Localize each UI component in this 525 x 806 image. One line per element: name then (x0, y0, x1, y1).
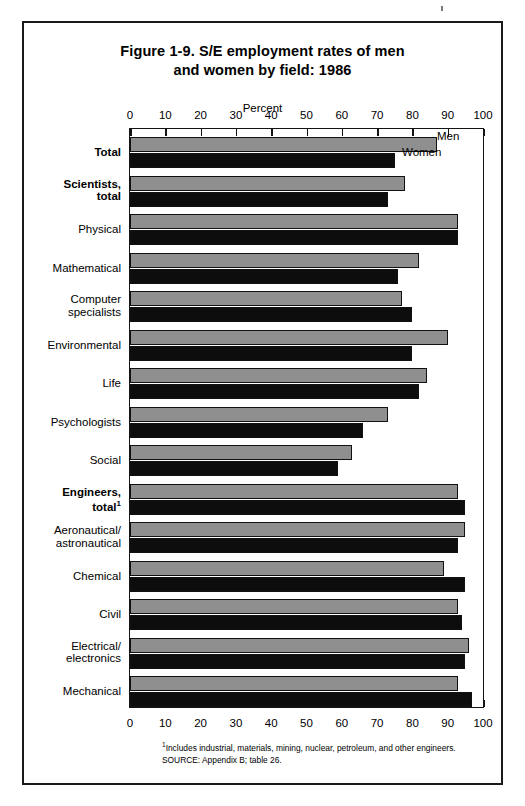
bar-group: Mathematical (130, 253, 483, 284)
bar-women (130, 423, 363, 438)
x-tick-top-0 (130, 129, 132, 136)
category-label-line: Psychologists (0, 416, 121, 429)
bar-group: Life (130, 368, 483, 399)
bar-women (130, 153, 395, 168)
bar-group: Mechanical (130, 676, 483, 707)
bar-group: Social (130, 445, 483, 476)
x-tick-label-bottom-30: 30 (216, 717, 256, 729)
x-tick-label-bottom-100: 100 (463, 717, 503, 729)
category-label-line: astronautical (0, 537, 121, 550)
x-tick-label-top-40: 40 (251, 109, 291, 121)
category-label-line: Electrical/ (0, 640, 121, 653)
x-tick-label-bottom-90: 90 (428, 717, 468, 729)
bar-men (130, 291, 402, 306)
bar-men (130, 253, 419, 268)
x-tick-label-top-20: 20 (181, 109, 221, 121)
category-label: Chemical (0, 570, 130, 583)
category-label: Mechanical (0, 685, 130, 698)
category-label: Life (0, 377, 130, 390)
category-label-line: Total (0, 146, 121, 159)
figure-frame: Figure 1-9. S/E employment rates of men … (22, 21, 503, 785)
category-label-line: Mathematical (0, 262, 121, 275)
category-label-line: Chemical (0, 570, 121, 583)
bar-men (130, 484, 458, 499)
x-tick-top-70 (377, 129, 379, 136)
figure-title-line1: Figure 1-9. S/E employment rates of men (120, 43, 404, 59)
category-label: Computerspecialists (0, 293, 130, 318)
scan-artifact (441, 6, 443, 11)
bar-women (130, 384, 419, 399)
bar-women (130, 192, 388, 207)
bar-group: Civil (130, 599, 483, 630)
category-label: Total (0, 146, 130, 159)
bar-men (130, 214, 458, 229)
category-label-line: Environmental (0, 339, 121, 352)
bar-men (130, 522, 465, 537)
x-tick-label-bottom-20: 20 (181, 717, 221, 729)
bar-women (130, 500, 465, 515)
chart-plot-area: 0010102020303040405050606070708080909010… (129, 128, 484, 708)
bar-women (130, 346, 412, 361)
footnote-text: Includes industrial, materials, mining, … (166, 743, 456, 753)
bar-group: Scientists,total (130, 176, 483, 207)
category-label: Scientists,total (0, 178, 130, 203)
bar-women (130, 692, 472, 707)
bar-group: Physical (130, 214, 483, 245)
category-label-line: Civil (0, 608, 121, 621)
bar-women (130, 307, 412, 322)
bar-men (130, 561, 444, 576)
x-tick-label-top-50: 50 (287, 109, 327, 121)
bar-group: Chemical (130, 561, 483, 592)
bar-group: Environmental (130, 330, 483, 361)
x-tick-label-top-80: 80 (392, 109, 432, 121)
source-line: SOURCE: Appendix B; table 26. (162, 754, 456, 766)
x-tick-label-top-10: 10 (145, 109, 185, 121)
x-tick-top-100 (483, 129, 485, 136)
bar-women (130, 538, 458, 553)
bar-women (130, 577, 465, 592)
bar-men (130, 137, 437, 152)
footnote-line: 1Includes industrial, materials, mining,… (162, 739, 456, 754)
series-label-women: Women (402, 146, 441, 158)
x-tick-top-60 (342, 129, 344, 136)
category-label: Civil (0, 608, 130, 621)
category-label-line: Engineers, (0, 486, 121, 499)
bar-men (130, 330, 448, 345)
category-label-line: Social (0, 454, 121, 467)
x-tick-top-40 (271, 129, 273, 136)
x-tick-label-top-100: 100 (463, 109, 503, 121)
category-label: Physical (0, 223, 130, 236)
x-tick-top-80 (412, 129, 414, 136)
x-tick-top-30 (236, 129, 238, 136)
x-tick-label-top-60: 60 (322, 109, 362, 121)
figure-title: Figure 1-9. S/E employment rates of men … (24, 42, 501, 80)
category-label-line: Computer (0, 293, 121, 306)
x-tick-label-bottom-40: 40 (251, 717, 291, 729)
bar-group: Psychologists (130, 407, 483, 438)
category-label-line: Life (0, 377, 121, 390)
category-label: Psychologists (0, 416, 130, 429)
category-label-superscript: 1 (117, 499, 121, 508)
bar-group: Computerspecialists (130, 291, 483, 322)
bar-women (130, 654, 465, 669)
category-label-line: Aeronautical/ (0, 524, 121, 537)
category-label: Electrical/electronics (0, 640, 130, 665)
x-tick-top-10 (165, 129, 167, 136)
x-tick-top-20 (201, 129, 203, 136)
series-label-men: Men (437, 130, 459, 142)
category-label-line: Physical (0, 223, 121, 236)
bar-group: Aeronautical/astronautical (130, 522, 483, 553)
bar-women (130, 230, 458, 245)
x-tick-bottom-100 (483, 700, 485, 707)
bar-men (130, 599, 458, 614)
x-tick-label-top-30: 30 (216, 109, 256, 121)
figure-title-line2: and women by field: 1986 (24, 61, 501, 80)
bar-women (130, 269, 398, 284)
x-tick-label-bottom-10: 10 (145, 717, 185, 729)
bar-men (130, 368, 427, 383)
category-label-line: Mechanical (0, 685, 121, 698)
category-label-line: total1 (0, 498, 121, 513)
bar-men (130, 638, 469, 653)
category-label-line: electronics (0, 652, 121, 665)
x-tick-label-top-0: 0 (110, 109, 150, 121)
